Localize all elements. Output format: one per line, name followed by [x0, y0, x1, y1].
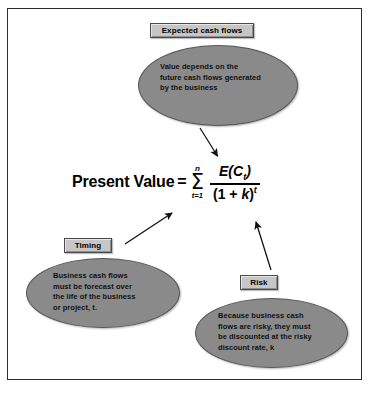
label-box-risk-text: Risk [250, 278, 267, 287]
ellipse-expected-cash-flows-text: Value depends on the future cash flows g… [160, 62, 292, 94]
formula-equals: = [177, 173, 186, 191]
ellipse-text-line: Because business cash [218, 311, 336, 322]
numerator-close: ) [246, 163, 251, 179]
present-value-formula: Present Value = n Σ t=1 E(Ct) (1 + k)t [72, 164, 260, 200]
label-box-expected-cash-flows: Expected cash flows [150, 23, 254, 38]
formula-denominator: (1 + k)t [210, 185, 260, 201]
ellipse-text-line: by the business [160, 83, 292, 94]
ellipse-text-line: or project, t. [53, 303, 163, 314]
ellipse-text-line: future cash flows generated [160, 73, 292, 84]
ellipse-text-line: Value depends on the [160, 62, 292, 73]
ellipse-text-line: Business cash flows [53, 271, 163, 282]
sigma-icon: Σ [191, 172, 204, 193]
formula-fraction: E(Ct) (1 + k)t [210, 164, 260, 200]
formula-numerator: E(Ct) [216, 164, 254, 183]
ellipse-text-line: must be forecast over [53, 282, 163, 293]
ellipse-text-line: be discounted at the risky [218, 332, 336, 343]
denominator-open: (1 + [213, 185, 241, 201]
ellipse-risk-text: Because business cash flows are risky, t… [218, 311, 336, 353]
diagram-canvas: Expected cash flows Value depends on the… [0, 0, 375, 394]
ellipse-text-line: flows are risky, they must [218, 322, 336, 333]
ellipse-text-line: the life of the business [53, 292, 163, 303]
ellipse-timing-text: Business cash flows must be forecast ove… [53, 271, 163, 313]
ellipse-text-line: discount rate, k [218, 343, 336, 354]
numerator-main: E(C [219, 163, 243, 179]
label-box-expected-cash-flows-text: Expected cash flows [162, 26, 243, 35]
summation-symbol-group: n Σ t=1 [191, 165, 204, 200]
summation-lower-limit: t=1 [192, 192, 203, 200]
formula-label: Present Value [72, 173, 174, 191]
label-box-timing-text: Timing [75, 241, 102, 250]
label-box-timing: Timing [64, 238, 112, 253]
label-box-risk: Risk [240, 275, 278, 290]
denominator-exponent: t [254, 185, 257, 195]
